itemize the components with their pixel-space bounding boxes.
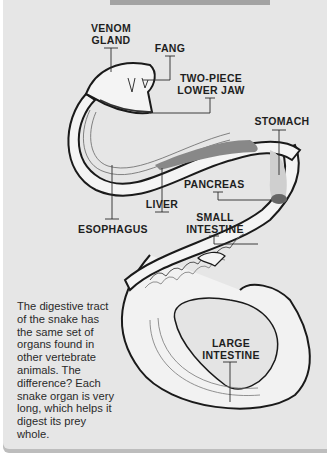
label-small-intestine: SMALL INTESTINE (184, 211, 246, 235)
label-two-piece-lower-jaw: TWO-PIECE LOWER JAW (176, 72, 246, 96)
label-pancreas: PANCREAS (184, 178, 244, 190)
label-esophagus: ESOPHAGUS (78, 223, 148, 235)
label-liver: LIVER (144, 198, 180, 210)
snake-tail (198, 252, 225, 266)
label-stomach: STOMACH (252, 115, 312, 127)
label-large-intestine: LARGE INTESTINE (200, 337, 262, 361)
label-fang: FANG (152, 42, 188, 54)
diagram-caption: The digestive tract of the snake has the… (17, 300, 117, 441)
label-venom-gland: VENOM GLAND (90, 22, 132, 46)
pancreas-shape (271, 194, 287, 204)
snake-head (86, 63, 155, 113)
